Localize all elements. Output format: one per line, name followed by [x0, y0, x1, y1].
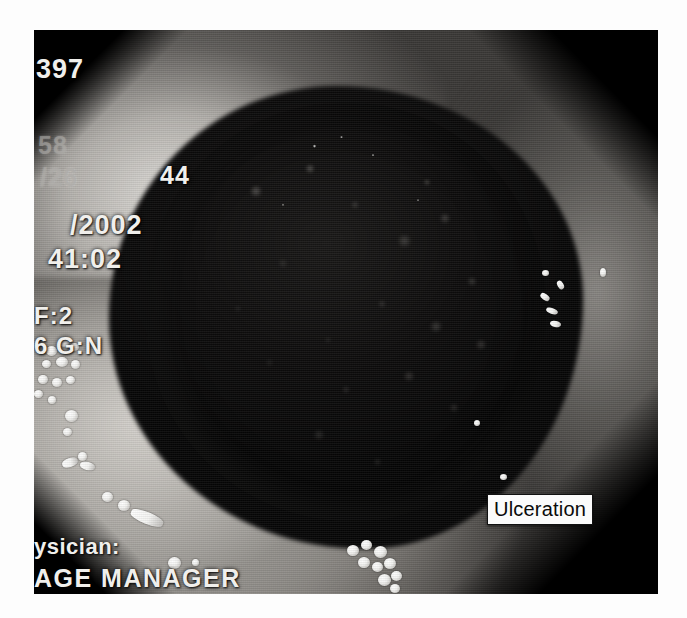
- mucus-bubble: [102, 492, 113, 502]
- mucus-bubble: [378, 574, 391, 586]
- mucus-bubble: [63, 428, 72, 436]
- mucus-bubble: [65, 410, 78, 422]
- mucus-bubble: [358, 557, 370, 568]
- mucus-bubble: [361, 540, 372, 550]
- mucus-bubble: [34, 390, 43, 398]
- mucus-bubble: [59, 338, 69, 347]
- mucus-bubble: [192, 559, 199, 566]
- mucus-bubble: [52, 378, 62, 387]
- mucus-bubble: [390, 584, 400, 593]
- mucus-bubble: [347, 545, 359, 556]
- mucus-bubble: [38, 375, 48, 384]
- mucus-bubble: [118, 500, 130, 511]
- mucus-bubble: [374, 546, 387, 558]
- mucus-bubble: [48, 396, 56, 404]
- mucus-bubble: [56, 357, 68, 367]
- mucus-bubble: [46, 346, 57, 356]
- endoscope-image: 397 58 /26 44 /2002 41:02 F:2 6 G:N ysic…: [34, 30, 658, 594]
- specular-highlight: [474, 420, 480, 426]
- mucus-bubble: [42, 360, 51, 368]
- mucus-bubble: [372, 562, 383, 572]
- mucus-bubble: [384, 558, 396, 569]
- mucus-bubble: [391, 571, 402, 581]
- screenshot-root: 397 58 /26 44 /2002 41:02 F:2 6 G:N ysic…: [0, 0, 687, 618]
- specular-highlight: [542, 270, 549, 276]
- mucus-bubble: [168, 557, 181, 569]
- mucus-bubble: [78, 452, 87, 461]
- mucus-bubble: [70, 343, 79, 351]
- specular-highlight: [500, 474, 507, 480]
- mucus-bubble: [71, 360, 80, 369]
- specular-highlight: [600, 268, 606, 277]
- annotation-label-ulceration: Ulceration: [487, 494, 593, 525]
- mucus-bubble: [66, 376, 75, 384]
